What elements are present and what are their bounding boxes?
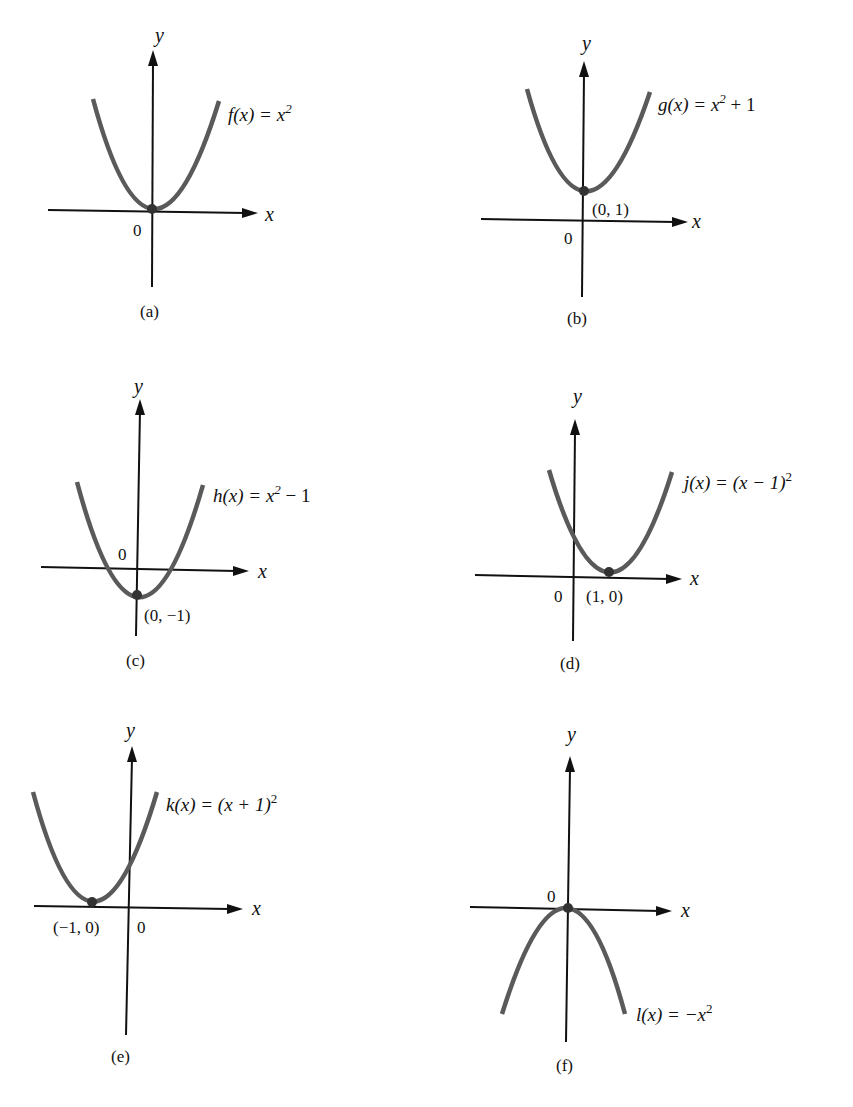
panel-f: y x 0 l(x) = −x2 (f) [470,723,712,1075]
x-axis [475,575,670,579]
parabola-transformations-figure: y x 0 f(x) = x2 (a) y x 0 (0, 1) g(x) = … [0,0,853,1107]
x-axis-label: x [680,899,690,921]
parabola-curve [527,89,650,191]
vertex-point [87,897,97,907]
y-axis-arrow-icon [579,61,589,77]
parabola-curve [549,470,672,573]
origin-label: 0 [547,887,556,906]
origin-label: 0 [118,545,127,564]
x-axis [41,567,236,571]
y-axis-label: y [580,32,591,55]
function-label: l(x) = −x2 [636,1001,712,1026]
panel-caption: (a) [140,302,159,321]
panel-c: y x 0 (0, −1) h(x) = x2 − 1 (c) [41,375,311,670]
origin-label: 0 [554,587,563,606]
y-axis [152,60,153,287]
x-axis-arrow-icon [242,208,258,218]
parabola-curve [77,482,203,597]
vertex-point [604,567,614,577]
vertex-label: (−1, 0) [53,918,99,937]
x-axis-label: x [257,560,267,582]
x-axis-arrow-icon [666,574,682,584]
vertex-label: (1, 0) [586,587,623,606]
panel-d: y x 0 (1, 0) j(x) = (x − 1)2 (d) [475,385,792,673]
x-axis-arrow-icon [656,906,672,916]
origin-label: 0 [564,229,573,248]
x-axis-label: x [691,210,701,232]
vertex-label: (0, 1) [592,200,629,219]
panel-caption: (d) [560,654,580,673]
y-axis-arrow-icon [127,746,137,762]
parabola-curve [93,99,219,209]
vertex-point [147,204,157,214]
x-axis-label: x [251,897,261,919]
x-axis [481,219,676,222]
panel-caption: (f) [556,1056,573,1075]
panel-caption: (b) [567,309,587,328]
panel-caption: (e) [111,1047,130,1066]
panel-a: y x 0 f(x) = x2 (a) [48,24,292,321]
y-axis-label: y [571,385,582,408]
x-axis [34,906,230,909]
y-axis-label: y [124,719,135,742]
x-axis-label: x [689,567,699,589]
parabola-curve [502,908,625,1014]
x-axis-arrow-icon [227,904,243,914]
vertex-point [132,590,142,600]
y-axis-arrow-icon [570,419,580,435]
y-axis [126,757,132,1035]
function-label: j(x) = (x − 1)2 [681,469,792,494]
y-axis [582,72,584,297]
panel-caption: (c) [126,651,145,670]
y-axis-arrow-icon [135,399,145,415]
function-label: k(x) = (x + 1)2 [166,791,277,816]
vertex-label: (0, −1) [144,606,190,625]
y-axis-arrow-icon [565,756,575,772]
origin-label: 0 [133,221,142,240]
y-axis-label: y [132,375,143,398]
function-label: h(x) = x2 − 1 [213,482,311,507]
parabola-curve [33,792,157,902]
function-label: f(x) = x2 [228,101,292,126]
panel-e: y x 0 (−1, 0) k(x) = (x + 1)2 (e) [33,719,277,1066]
vertex-point [563,903,573,913]
origin-label: 0 [137,918,146,937]
vertex-point [579,186,589,196]
x-axis-label: x [264,203,274,225]
x-axis [48,210,246,213]
x-axis-arrow-icon [672,217,688,227]
y-axis-label: y [153,24,164,47]
panel-b: y x 0 (0, 1) g(x) = x2 + 1 (b) [481,32,756,328]
function-label: g(x) = x2 + 1 [658,91,756,116]
y-axis-arrow-icon [148,50,158,66]
x-axis-arrow-icon [233,566,249,576]
y-axis-label: y [565,723,576,746]
y-axis [136,410,140,636]
